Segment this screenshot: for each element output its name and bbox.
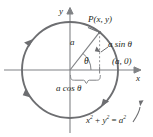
angle-theta-label: θ <box>84 57 89 67</box>
equation-a-exponent: 2 <box>123 114 126 120</box>
point-p-marker <box>98 31 101 34</box>
a-sin-theta-leader-line <box>101 47 108 52</box>
a-sin-theta-leader-arrowhead <box>94 47 102 55</box>
equation-equals: = <box>109 115 119 125</box>
trigonometry-circle-figure: y x P(x, y) a θ a sin θ (a, 0) a cos θ x… <box>0 0 153 137</box>
y-axis-arrowhead <box>67 8 73 15</box>
figure-canvas <box>0 0 153 137</box>
equation-leader-arrowhead <box>138 99 144 106</box>
a-sin-theta-label: a sin θ <box>108 40 132 49</box>
a-cos-theta-label: a cos θ <box>56 84 81 93</box>
point-p-label: P(x, y) <box>88 15 112 24</box>
equation-plus: + <box>93 115 103 125</box>
equation-leader-line <box>133 107 140 122</box>
radius-length-label: a <box>70 38 75 47</box>
y-axis-label: y <box>59 7 63 16</box>
circle-equation-label: x2 + y2 = a2 <box>86 116 126 125</box>
x-axis-label: x <box>136 74 140 83</box>
equation-leader <box>133 99 144 122</box>
circle-direction-arrows <box>21 37 109 109</box>
x-intercept-label: (a, 0) <box>112 57 132 66</box>
a-sin-theta-leader <box>94 47 108 55</box>
